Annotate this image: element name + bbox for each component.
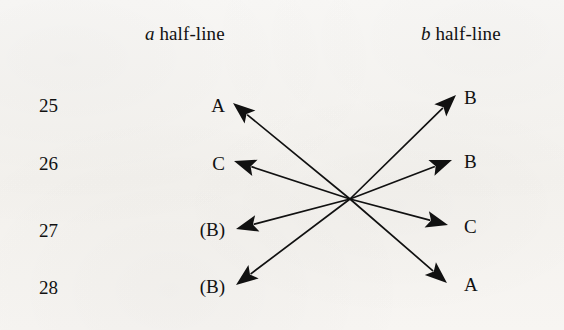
arrow-to-right-b-25: [350, 95, 456, 199]
arrow-to-right-a-28-head: [425, 262, 447, 283]
arrow-to-left-b-28: [236, 199, 350, 285]
arrow-layer: [0, 0, 564, 330]
arrow-to-left-b-27: [236, 199, 350, 232]
arrow-to-left-b-28-shaft: [251, 199, 350, 274]
arrow-to-left-b-28-head: [236, 265, 259, 285]
arrow-to-right-b-26: [350, 160, 452, 199]
arrow-to-right-b-26-shaft: [350, 167, 434, 199]
halfline-alliteration-diagram: a half-line b half-line 25 A B 26 C B 27…: [0, 0, 564, 330]
arrow-to-right-b-25-shaft: [350, 108, 442, 199]
arrow-to-left-a-25-head: [233, 103, 255, 124]
arrow-to-left-b-27-shaft: [254, 199, 350, 224]
arrow-to-left-c-26: [234, 160, 350, 199]
arrow-to-left-a-25-shaft: [248, 115, 350, 199]
arrow-to-left-a-25: [233, 103, 350, 199]
arrow-to-right-c-27: [350, 199, 448, 228]
arrow-to-left-c-26-shaft: [252, 167, 350, 199]
